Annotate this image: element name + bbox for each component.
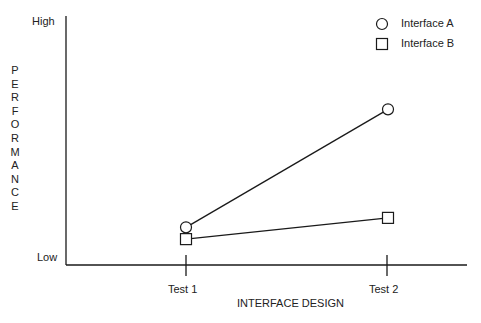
y-axis-title-letter: E	[8, 78, 22, 91]
legend-label-interface-b: Interface B	[401, 37, 454, 50]
x-tick-label-test-1: Test 1	[168, 283, 197, 296]
data-point-square-icon	[383, 212, 394, 223]
legend-label-interface-a: Interface A	[401, 17, 454, 30]
y-label-high: High	[32, 15, 55, 28]
data-point-circle-icon	[181, 222, 192, 233]
data-point-square-icon	[181, 234, 192, 245]
legend-circle-icon	[377, 19, 388, 30]
x-axis-title: INTERFACE DESIGN	[237, 297, 344, 310]
y-axis-title-letter: O	[8, 118, 22, 131]
y-axis-title-letter: R	[8, 91, 22, 104]
data-point-circle-icon	[383, 104, 394, 115]
y-axis-title-letter: A	[8, 159, 22, 172]
y-axis-title-letter: F	[8, 105, 22, 118]
y-axis-title-letter: P	[8, 64, 22, 77]
x-tick-label-test-2: Test 2	[369, 283, 398, 296]
y-axis-title-letter: E	[8, 200, 22, 213]
y-axis-title-letter: M	[8, 146, 22, 159]
series-line-interface-b	[186, 218, 388, 239]
y-label-low: Low	[37, 251, 57, 264]
y-axis-title-letter: N	[8, 173, 22, 186]
legend-square-icon	[377, 39, 388, 50]
y-axis-title-letter: C	[8, 186, 22, 199]
series-line-interface-a	[186, 109, 388, 227]
y-axis-title-letter: R	[8, 132, 22, 145]
